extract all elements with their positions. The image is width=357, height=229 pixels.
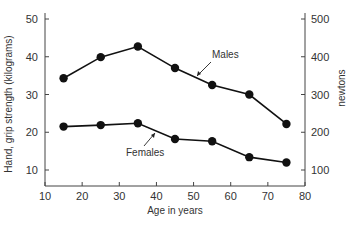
data-point [282, 120, 290, 128]
annotation-males: Males [212, 49, 239, 60]
x-tick-label: 70 [262, 190, 274, 202]
data-point [245, 90, 253, 98]
data-point [59, 74, 67, 82]
y-tick-label: 30 [26, 89, 38, 101]
x-axis-label: Age in years [147, 205, 203, 216]
data-point [171, 64, 179, 72]
data-point [134, 42, 142, 50]
arrowhead-icon [197, 71, 201, 76]
y-tick-label: 20 [26, 126, 38, 138]
x-tick-label: 40 [150, 190, 162, 202]
data-point [245, 153, 253, 161]
x-tick-label: 50 [187, 190, 199, 202]
y-right-tick-label: 100 [311, 164, 329, 176]
data-point [97, 53, 105, 61]
y-axis-label: Hand, grip strength (kilograms) [3, 35, 14, 172]
data-point [208, 137, 216, 145]
data-point [171, 135, 179, 143]
annotations: MalesFemales [126, 49, 239, 158]
x-tick-label: 20 [76, 190, 88, 202]
annotation-females: Females [126, 147, 164, 158]
data-point [282, 158, 290, 166]
y-tick-label: 10 [26, 164, 38, 176]
data-point [134, 119, 142, 127]
y-tick-label: 50 [26, 13, 38, 25]
labels: Age in years Hand, grip strength (kilogr… [3, 35, 347, 216]
x-tick-label: 30 [113, 190, 125, 202]
x-tick-label: 80 [299, 190, 311, 202]
x-tick-label: 60 [225, 190, 237, 202]
axes: 1020304050100200300400500102030405060708… [26, 13, 330, 202]
y-axis-right-label: newtons [336, 69, 347, 106]
x-tick-label: 10 [39, 190, 51, 202]
y-right-tick-label: 400 [311, 51, 329, 63]
y-tick-label: 40 [26, 51, 38, 63]
series-group [59, 42, 290, 166]
data-point [59, 122, 67, 130]
y-right-tick-label: 500 [311, 13, 329, 25]
data-point [97, 121, 105, 129]
line-chart: 1020304050100200300400500102030405060708… [0, 0, 357, 229]
y-right-tick-label: 300 [311, 89, 329, 101]
y-right-tick-label: 200 [311, 126, 329, 138]
data-point [208, 81, 216, 89]
